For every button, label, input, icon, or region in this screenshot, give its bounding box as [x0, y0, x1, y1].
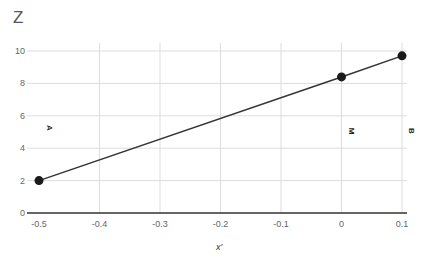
point-label-m: M: [347, 128, 356, 135]
chart: Z 0246810-0.5-0.4-0.3-0.2-0.100.1AMBx': [0, 0, 428, 265]
y-tick-label: 10: [15, 46, 25, 56]
point-label-b: B: [407, 128, 416, 134]
y-tick-label: 8: [20, 78, 25, 88]
y-tick-label: 2: [20, 176, 25, 186]
x-tick-label: -0.2: [213, 219, 229, 229]
plot-area: 0246810-0.5-0.4-0.3-0.2-0.100.1AMBx': [0, 0, 428, 265]
y-tick-label: 4: [20, 143, 25, 153]
x-tick-label: 0.1: [396, 219, 409, 229]
y-tick-label: 0: [20, 208, 25, 218]
x-tick-label: 0: [339, 219, 344, 229]
y-tick-label: 6: [20, 111, 25, 121]
x-tick-label: -0.1: [273, 219, 289, 229]
point-label-a: A: [45, 125, 54, 131]
x-tick-label: -0.5: [31, 219, 47, 229]
x-tick-label: -0.3: [152, 219, 168, 229]
data-point-marker: [398, 51, 407, 60]
data-point-marker: [337, 72, 346, 81]
x-axis-title: x': [215, 242, 223, 252]
data-point-marker: [35, 176, 44, 185]
x-tick-label: -0.4: [92, 219, 108, 229]
